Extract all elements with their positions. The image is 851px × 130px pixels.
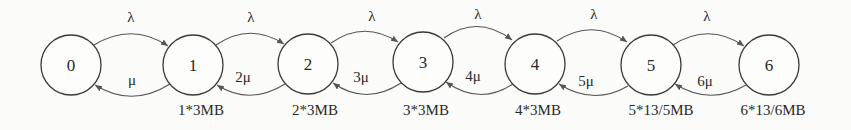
state-label: 3: [419, 53, 428, 72]
arc-4-5: [557, 30, 627, 42]
state-label: 0: [67, 56, 76, 75]
arc-5-6: [673, 34, 744, 46]
mu-label: 2μ: [235, 69, 251, 85]
arc-2-1: [217, 84, 285, 95]
memory-label: 1*3MB: [178, 102, 224, 118]
memory-label: 6*13/6MB: [740, 102, 805, 118]
markov-chain-diagram: 0 1 2 3 4 5 6 λ λ λ λ λ λ μ 2μ 3μ 4μ 5μ …: [0, 0, 851, 130]
memory-label: 4*3MB: [515, 102, 561, 118]
mu-label: μ: [128, 72, 136, 88]
lambda-label: λ: [127, 9, 135, 25]
state-label: 1: [189, 56, 198, 75]
mu-label: 6μ: [697, 73, 713, 89]
lambda-label: λ: [368, 8, 376, 24]
arc-3-4: [444, 26, 512, 40]
memory-label: 5*13/5MB: [628, 102, 693, 118]
state-label: 6: [765, 56, 774, 75]
state-label: 5: [647, 56, 656, 75]
lambda-label: λ: [703, 8, 711, 24]
lambda-label: λ: [247, 9, 255, 25]
mu-label: 3μ: [353, 69, 369, 85]
arc-2-3: [331, 31, 398, 43]
mu-label: 5μ: [578, 73, 594, 89]
arc-0-1: [94, 34, 168, 46]
forward-labels: λ λ λ λ λ λ: [127, 6, 711, 25]
mu-label: 4μ: [465, 68, 481, 84]
memory-labels: 1*3MB 2*3MB 3*3MB 4*3MB 5*13/5MB 6*13/6M…: [178, 102, 805, 118]
memory-label: 3*3MB: [403, 102, 449, 118]
state-label: 2: [304, 55, 313, 74]
lambda-label: λ: [590, 6, 598, 22]
memory-label: 2*3MB: [292, 102, 338, 118]
arc-1-2: [216, 33, 284, 45]
lambda-label: λ: [474, 6, 482, 22]
state-label: 4: [531, 55, 540, 74]
